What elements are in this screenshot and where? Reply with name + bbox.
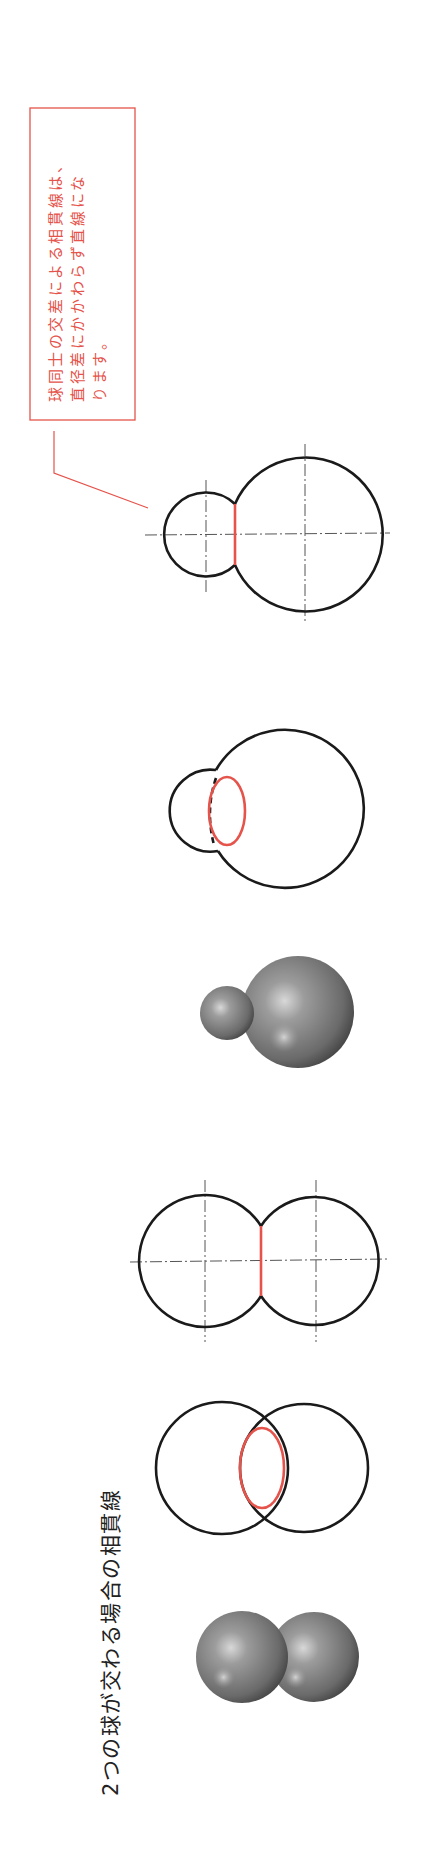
unequal-shaded-render: [200, 956, 354, 1068]
right-circle-outline: [261, 1197, 379, 1325]
equal-shaded-render: [196, 1611, 359, 1703]
callout-line-3: ります。: [91, 333, 109, 402]
diagram-canvas: 球同士の交差による相貫線は、 直径差にかかわらず直線にな ります。: [0, 0, 446, 1867]
equal-front-view: [130, 1180, 389, 1342]
unequal-oblique-view: [170, 730, 364, 888]
intersection-ellipse: [209, 777, 245, 845]
centerline-horizontal: [145, 533, 390, 535]
callout-leader-line: [54, 431, 148, 508]
intersection-ellipse: [240, 1428, 284, 1508]
large-circle-outline: [235, 458, 383, 612]
small-sphere: [200, 986, 254, 1040]
left-sphere-highlight: [206, 1650, 250, 1694]
right-circle-outline: [240, 1404, 368, 1532]
figure-title: 2つの球が交わる場合の相貫線: [99, 1489, 123, 1796]
callout-line-2: 直径差にかかわらず直線にな: [69, 173, 87, 402]
left-circle-outline: [156, 1402, 288, 1534]
callout: 球同士の交差による相貫線は、 直径差にかかわらず直線にな ります。: [30, 108, 148, 508]
large-circle-outline: [216, 730, 364, 888]
callout-line-1: 球同士の交差による相貫線は、: [47, 156, 65, 402]
centerline-horizontal: [130, 1259, 389, 1262]
large-sphere-highlight: [260, 1000, 320, 1060]
equal-oblique-view: [156, 1402, 368, 1534]
unequal-front-view: [145, 444, 390, 622]
